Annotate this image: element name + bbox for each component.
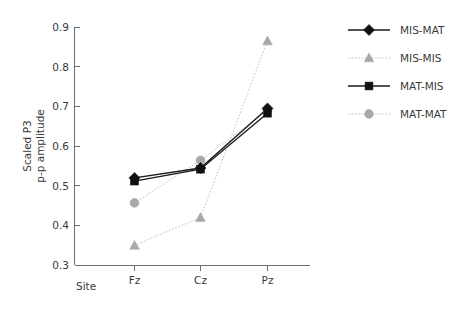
data-point-marker-triangle (196, 213, 206, 222)
data-point-marker-triangle (263, 36, 273, 45)
y-tick-label: 0.5 (52, 180, 69, 192)
data-point-marker-circle (130, 199, 139, 208)
x-tick-label-fz: Fz (129, 274, 141, 286)
series-markers-mis-mat (129, 103, 273, 183)
legend-item-mat-mis[interactable]: MAT-MIS (348, 80, 444, 92)
y-axis-title-line1: Scaled P3 (21, 120, 33, 171)
series-markers-mat-mis (131, 109, 272, 185)
y-tick-label: 0.8 (52, 61, 69, 73)
legend-label-mis-mat: MIS-MAT (400, 24, 445, 36)
chart-figure: 0.9 0.8 0.7 0.6 0.5 0.4 0.3 Fz Cz Pz Sit… (0, 0, 459, 310)
legend-marker-circle (365, 110, 374, 119)
x-axis-title: Site (76, 280, 96, 292)
x-axis-ticks (135, 266, 268, 272)
legend-marker-square (365, 82, 373, 90)
data-point-marker-triangle (130, 240, 140, 249)
legend-label-mis-mis: MIS-MIS (400, 52, 442, 64)
legend-item-mis-mat[interactable]: MIS-MAT (348, 24, 445, 36)
y-tick-label: 0.9 (52, 21, 69, 33)
legend-label-mat-mat: MAT-MAT (400, 108, 447, 120)
y-tick-label: 0.6 (52, 140, 69, 152)
y-tick-label: 0.4 (52, 219, 69, 231)
line-chart-svg: 0.9 0.8 0.7 0.6 0.5 0.4 0.3 Fz Cz Pz Sit… (0, 0, 459, 310)
legend-marker-triangle (364, 53, 374, 62)
series-markers-mat-mat (130, 106, 272, 207)
x-tick-label-cz: Cz (194, 274, 207, 286)
y-axis-title-line2: p-p amplitude (34, 109, 46, 183)
y-axis-ticks (75, 27, 80, 265)
y-tick-label: 0.7 (52, 100, 69, 112)
legend-item-mat-mat[interactable]: MAT-MAT (348, 108, 447, 120)
legend-item-mis-mis[interactable]: MIS-MIS (348, 52, 442, 64)
series-markers-mis-mis (130, 36, 273, 249)
legend-label-mat-mis: MAT-MIS (400, 80, 444, 92)
legend-marker-diamond (364, 25, 375, 36)
x-tick-label-pz: Pz (262, 274, 274, 286)
y-tick-label: 0.3 (52, 259, 69, 271)
chart-legend: MIS-MAT MIS-MIS MAT-MIS MAT-MAT (348, 24, 447, 120)
